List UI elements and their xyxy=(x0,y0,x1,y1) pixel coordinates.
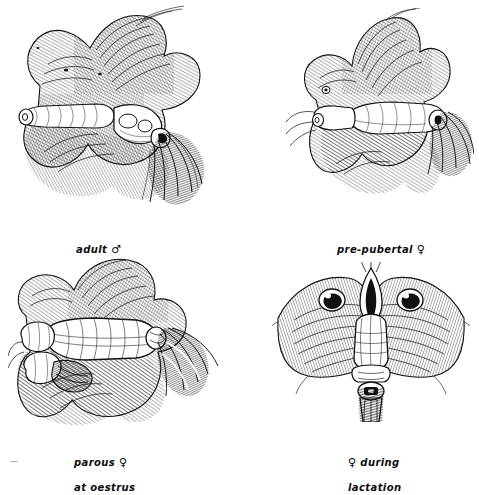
caption-text-lactation: lactation xyxy=(348,482,401,495)
illustration-female-during-lactation xyxy=(272,262,470,422)
illustration-adult-male xyxy=(4,4,216,216)
caption-pre-pubertal-female: pre-pubertal ♀ xyxy=(337,219,425,269)
caption-female-during-lactation: ♀ during lactation xyxy=(348,432,401,495)
female-symbol: ♀ xyxy=(119,456,127,469)
caption-parous-female-at-oestrus: parous ♀ at oestrus xyxy=(74,432,135,495)
caption-text-parous-female: parous xyxy=(74,457,119,468)
female-symbol: ♀ xyxy=(417,243,425,256)
caption-text-at-oestrus: at oestrus xyxy=(74,482,135,495)
male-symbol: ♂ xyxy=(111,243,121,256)
cropped-caption-fragment: — xyxy=(10,456,18,465)
caption-text-adult-male: adult xyxy=(76,244,111,255)
illustration-pre-pubertal-female xyxy=(286,8,474,212)
caption-adult-male: adult ♂ xyxy=(76,219,121,269)
figure-panel-female-during-lactation xyxy=(272,262,470,422)
figure-panel-adult-male xyxy=(4,4,216,216)
caption-text-during: during xyxy=(356,457,399,468)
caption-text-pre-pubertal-female: pre-pubertal xyxy=(337,244,417,255)
illustration-parous-female-at-oestrus xyxy=(8,256,222,426)
figure-panel-pre-pubertal-female xyxy=(286,8,474,212)
figure-panel-parous-female-at-oestrus xyxy=(8,256,222,426)
